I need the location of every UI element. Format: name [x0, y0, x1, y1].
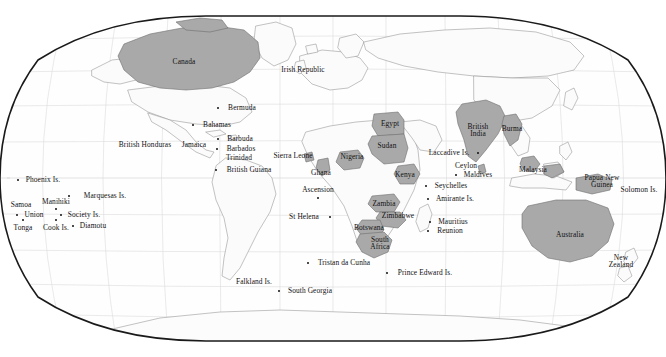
map-label-reunion: Reunion [437, 227, 463, 235]
map-marker-st-helena [329, 216, 331, 218]
map-marker-tonga [22, 219, 24, 221]
map-label-mauritius: Mauritius [438, 218, 468, 226]
map-label-falkland-is: Falkland Is. [236, 278, 272, 286]
map-label-barbados: Barbados [227, 145, 256, 153]
map-marker-prince-edward-is [386, 272, 388, 274]
map-marker-seychelles [425, 185, 427, 187]
map-label-diamotu: Diamotu [80, 222, 107, 230]
map-marker-barbados [216, 148, 218, 150]
map-label-phoenix-is: Phoenix Is. [26, 176, 60, 184]
map-marker-south-georgia [278, 290, 280, 292]
map-label-zambia: Zambia [372, 200, 395, 208]
map-marker-union [16, 214, 18, 216]
map-label-laccadive-is: Laccadive Is. [429, 149, 470, 157]
map-label-cook-is: Cook Is. [43, 224, 69, 232]
map-label-bermuda: Bermuda [228, 104, 256, 112]
map-label-british-india: BritishIndia [468, 123, 489, 138]
map-marker-manihiki [55, 208, 57, 210]
map-label-sudan: Sudan [378, 142, 397, 150]
map-label-barbuda: Barbuda [227, 135, 253, 143]
map-marker-maldives [455, 174, 457, 176]
map-label-egypt: Egypt [381, 120, 399, 128]
map-label-samoa: Samoa [11, 201, 32, 209]
map-label-manihiki: Manihiki [42, 198, 70, 206]
map-label-botswana: Botswana [354, 224, 384, 232]
map-marker-british-guiana [215, 169, 217, 171]
map-marker-laccadive-is [477, 152, 479, 154]
map-label-south-africa: SouthAfrica [370, 236, 389, 251]
map-marker-phoenix-is [17, 179, 19, 181]
map-label-marquesas-is: Marquesas Is. [84, 192, 126, 200]
map-label-zimbabwe: Zimbabwe [382, 212, 414, 220]
map-label-british-honduras: British Honduras [119, 141, 171, 149]
map-marker-diamotu [72, 225, 74, 227]
map-label-south-georgia: South Georgia [288, 287, 332, 295]
map-label-ceylon: Ceylon [455, 162, 477, 170]
map-label-bahamas: Bahamas [203, 121, 231, 129]
map-label-nigeria: Nigeria [341, 153, 364, 161]
map-label-sierra-leone: Sierra Leone [273, 152, 312, 160]
map-marker-amirante-is [427, 198, 429, 200]
map-label-amirante-is: Amirante Is. [436, 195, 474, 203]
map-label-trinidad: Trinidad [226, 154, 252, 162]
map-label-seychelles: Seychelles [435, 182, 468, 190]
map-marker-society-is [60, 214, 62, 216]
map-label-papua-new-guinea: Papua NewGuinea [585, 174, 620, 189]
map-label-st-helena: St Helena [289, 213, 319, 221]
map-marker-tristan-da-cunha [307, 262, 309, 264]
map-label-kenya: Kenya [395, 171, 415, 179]
map-label-malaysia: Malaysia [519, 166, 547, 174]
map-label-solomon-is: Solomon Is. [621, 186, 658, 194]
map-label-british-guiana: British Guiana [227, 166, 272, 174]
map-marker-mauritius [429, 221, 431, 223]
map-label-jamaica: Jamaica [182, 141, 207, 149]
map-label-irish-republic: Irish Republic [281, 66, 324, 74]
map-label-society-is: Society Is. [68, 211, 100, 219]
map-label-prince-edward-is: Prince Edward Is. [398, 269, 452, 277]
map-label-union: Union [25, 211, 44, 219]
map-label-maldives: Maldives [464, 171, 492, 179]
map-marker-ascension [317, 197, 319, 199]
map-label-tristan-da-cunha: Tristan da Cunha [318, 259, 370, 267]
map-label-australia: Australia [556, 231, 584, 239]
map-marker-bermuda [217, 107, 219, 109]
map-marker-barbuda [217, 138, 219, 140]
map-canvas [0, 0, 666, 357]
map-label-burma: Burma [502, 125, 523, 133]
map-label-ghana: Ghana [311, 169, 331, 177]
map-marker-bahamas [192, 124, 194, 126]
map-marker-reunion [427, 230, 429, 232]
map-label-new-zealand: NewZealand [609, 254, 634, 269]
map-label-tonga: Tonga [14, 224, 33, 232]
world-map: CanadaIrish RepublicBermudaBahamasBarbud… [0, 0, 666, 357]
map-marker-cook-is [55, 219, 57, 221]
map-label-canada: Canada [173, 58, 196, 66]
map-label-ascension: Ascension [302, 186, 334, 194]
